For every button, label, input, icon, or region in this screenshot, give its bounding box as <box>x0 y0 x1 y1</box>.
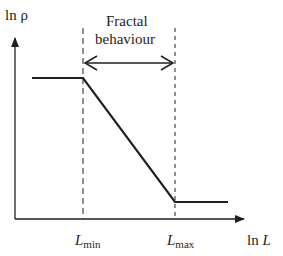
x-axis-label: ln L <box>247 233 271 248</box>
y-axis-label: ln ρ <box>5 8 28 23</box>
lmin-sub: min <box>83 238 100 250</box>
x-axis-prefix: ln <box>247 232 262 248</box>
lmax-sub: max <box>175 238 194 250</box>
annotation-line1: Fractal <box>106 14 148 29</box>
lmax-label: Lmax <box>167 233 194 250</box>
annotation-line2: behaviour <box>95 32 155 47</box>
lmin-label: Lmin <box>75 233 100 250</box>
x-axis-var: L <box>262 232 270 248</box>
data-curve <box>32 78 228 202</box>
